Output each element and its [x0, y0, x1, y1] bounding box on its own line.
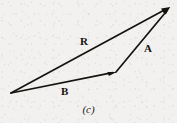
vector-a-arrow — [116, 7, 170, 72]
vector-a-shaft — [116, 11, 167, 72]
vector-label-r: R — [80, 36, 88, 47]
vector-b-arrowhead — [107, 72, 116, 76]
vector-label-b: B — [61, 86, 69, 97]
vector-r-shaft — [11, 9, 166, 93]
figure-caption: (c) — [0, 104, 177, 115]
vector-label-a: A — [144, 43, 152, 54]
vector-addition-figure: R A B (c) — [0, 0, 177, 123]
